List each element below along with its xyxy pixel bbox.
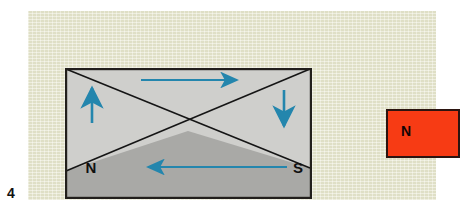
bar-magnet-north-label: N <box>401 124 411 138</box>
figure-background-panel: N S N <box>28 11 436 200</box>
diagram-north-pole-label: N <box>86 159 97 176</box>
diagram-south-pole-label: S <box>293 159 303 176</box>
magnet-field-diagram: N S <box>65 68 312 199</box>
figure-number-label: 4 <box>7 186 15 200</box>
red-bar-magnet: N <box>386 109 460 158</box>
